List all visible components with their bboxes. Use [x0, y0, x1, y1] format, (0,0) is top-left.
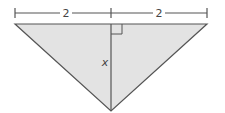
altitude-label: x	[101, 56, 109, 69]
triangle-diagram: 2 2 x	[0, 0, 225, 113]
right-base-label: 2	[156, 7, 163, 20]
left-base-label: 2	[63, 7, 70, 20]
dimension-line	[15, 8, 207, 18]
